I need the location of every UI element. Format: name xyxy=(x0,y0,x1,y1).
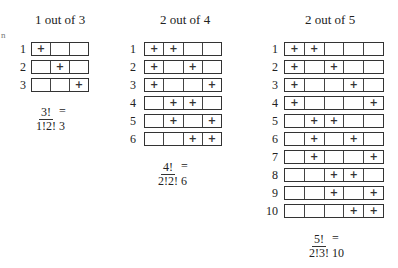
denominator: 2!2! xyxy=(156,175,180,188)
row-number: 3 xyxy=(122,78,136,92)
cell: + xyxy=(305,115,325,127)
cell xyxy=(145,97,164,109)
cell xyxy=(203,43,221,55)
cell xyxy=(325,151,345,163)
cell xyxy=(203,97,221,109)
cell xyxy=(344,97,364,109)
row-box: + + xyxy=(284,42,384,56)
numerator: 4! xyxy=(161,161,175,175)
cell: + xyxy=(364,97,383,109)
cell xyxy=(305,169,325,181)
cell: + xyxy=(344,79,364,91)
row-number: 4 xyxy=(122,96,136,110)
cell xyxy=(285,151,305,163)
cell xyxy=(32,61,51,73)
denominator: 1!2! xyxy=(34,120,58,133)
cell: + xyxy=(203,79,221,91)
cell: + xyxy=(184,61,203,73)
cell xyxy=(164,133,183,145)
cell xyxy=(364,79,383,91)
cell: + xyxy=(203,115,221,127)
cell xyxy=(285,115,305,127)
cell xyxy=(305,79,325,91)
row-number: 3 xyxy=(264,78,278,92)
row-box: + + xyxy=(144,96,222,110)
row-box: + xyxy=(31,60,89,74)
cell xyxy=(285,187,305,199)
stray-mark: n xyxy=(1,30,6,40)
row-box: + + xyxy=(284,186,384,200)
cell xyxy=(325,133,345,145)
cell xyxy=(145,133,164,145)
cell: + xyxy=(164,97,183,109)
row-box: + xyxy=(31,78,89,92)
cell: + xyxy=(325,187,345,199)
row-number: 3 xyxy=(12,78,26,92)
cell xyxy=(70,43,88,55)
cell xyxy=(344,187,364,199)
cell: + xyxy=(164,43,183,55)
row-number: 5 xyxy=(264,114,278,128)
row-number: 2 xyxy=(264,60,278,74)
cell xyxy=(344,115,364,127)
cell: + xyxy=(305,151,325,163)
row-box: + + xyxy=(144,78,222,92)
cell xyxy=(305,187,325,199)
cell xyxy=(203,61,221,73)
cell xyxy=(364,43,383,55)
cell: + xyxy=(305,133,325,145)
cell xyxy=(51,79,70,91)
cell xyxy=(164,61,183,73)
cell: + xyxy=(305,43,325,55)
panel-title: 1 out of 3 xyxy=(35,12,85,28)
fraction: 5! 2!3! xyxy=(307,233,331,260)
cell: + xyxy=(325,169,345,181)
cell xyxy=(305,61,325,73)
row-box: + + xyxy=(284,150,384,164)
row-number: 2 xyxy=(122,60,136,74)
row-number: 1 xyxy=(264,42,278,56)
fraction: 4! 2!2! xyxy=(156,161,180,188)
combination-formula: 4! 2!2! = 6 xyxy=(156,159,188,189)
cell xyxy=(364,115,383,127)
cell: + xyxy=(70,79,88,91)
cell xyxy=(285,169,305,181)
cell: + xyxy=(285,79,305,91)
numerator: 3! xyxy=(39,106,53,120)
row-box: + + xyxy=(144,114,222,128)
cell xyxy=(364,169,383,181)
cell xyxy=(184,43,203,55)
cell: + xyxy=(145,43,164,55)
cell: + xyxy=(203,133,221,145)
row-number: 6 xyxy=(122,132,136,146)
panel-title: 2 out of 5 xyxy=(305,12,355,28)
cell xyxy=(305,205,325,217)
cell: + xyxy=(285,97,305,109)
cell xyxy=(344,151,364,163)
cell: + xyxy=(32,43,51,55)
cell xyxy=(164,79,183,91)
row-box: + + xyxy=(144,132,222,146)
cell: + xyxy=(364,205,383,217)
cell: + xyxy=(164,115,183,127)
cell xyxy=(32,79,51,91)
combination-formula: 3! 1!2! = 3 xyxy=(34,104,66,134)
row-box: + + xyxy=(284,204,384,218)
result: = 3 xyxy=(59,104,66,134)
cell: + xyxy=(325,61,345,73)
combination-formula: 5! 2!3! = 10 xyxy=(307,231,344,261)
cell xyxy=(145,115,164,127)
cell xyxy=(285,205,305,217)
cell: + xyxy=(145,79,164,91)
row-box: + + xyxy=(284,60,384,74)
row-number: 10 xyxy=(264,204,278,218)
row-number: 8 xyxy=(264,168,278,182)
row-box: + + xyxy=(284,78,384,92)
cell xyxy=(305,97,325,109)
row-box: + + xyxy=(144,42,222,56)
row-box: + + xyxy=(284,132,384,146)
cell xyxy=(344,61,364,73)
row-number: 9 xyxy=(264,186,278,200)
cell: + xyxy=(145,61,164,73)
cell: + xyxy=(184,133,203,145)
